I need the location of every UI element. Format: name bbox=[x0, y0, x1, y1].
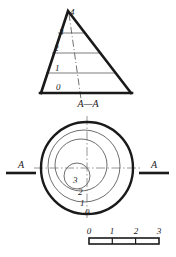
elevation-label-1: 1 bbox=[55, 63, 60, 73]
plan-view bbox=[34, 116, 141, 220]
plan-label-3: 3 bbox=[72, 175, 78, 185]
section-marker-left-label: A bbox=[17, 159, 25, 170]
scale-label-2: 2 bbox=[134, 226, 139, 236]
scale-label-1: 1 bbox=[110, 226, 115, 236]
scale-bar bbox=[89, 238, 159, 244]
scale-label-3: 3 bbox=[156, 226, 162, 236]
section-marker-right: A bbox=[139, 159, 169, 173]
scale-bar-body bbox=[89, 238, 159, 244]
elevation-view bbox=[40, 11, 132, 99]
plan-label-0: 0 bbox=[85, 207, 90, 217]
section-title: A—A bbox=[76, 98, 99, 109]
plan-contour-2 bbox=[55, 139, 107, 191]
plan-label-2: 2 bbox=[78, 187, 83, 197]
section-marker-right-label: A bbox=[150, 159, 158, 170]
plan-label-1: 1 bbox=[80, 198, 85, 208]
scale-label-0: 0 bbox=[87, 226, 92, 236]
section-marker-left: A bbox=[6, 159, 36, 173]
elevation-label-0: 0 bbox=[56, 82, 61, 92]
elevation-label-4: 4 bbox=[70, 7, 75, 17]
elevation-label-3: 3 bbox=[58, 27, 64, 37]
elevation-label-2: 2 bbox=[54, 43, 59, 53]
contour-map-figure: 4 3 2 1 0 A—A 3 2 1 0 A A 0 1 2 3 bbox=[0, 0, 176, 257]
